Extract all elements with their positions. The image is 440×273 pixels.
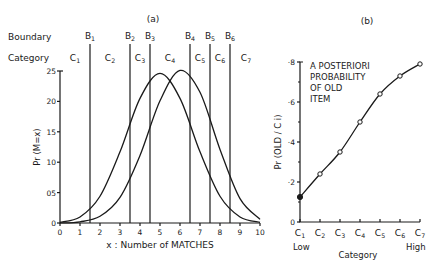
x-tick-label: 3 xyxy=(118,228,123,237)
category-labels: C1C2C3C4C5C6C7 xyxy=(70,53,251,64)
category-tick-label: C7 xyxy=(415,228,425,239)
category-tick-label: C3 xyxy=(335,228,345,239)
category-label: C3 xyxy=(135,53,145,64)
category-label: C4 xyxy=(165,53,175,64)
annotation-line: OF OLD xyxy=(310,83,343,93)
panel-b-axes: 0·2·4·6·8C1C2C3C4C5C6C7 xyxy=(288,58,425,239)
x-tick-label: 9 xyxy=(238,228,243,237)
x-tick-label: 8 xyxy=(218,228,223,237)
annotation-line: ITEM xyxy=(310,94,330,104)
data-point-marker xyxy=(358,120,362,124)
x-tick-label: 7 xyxy=(198,228,203,237)
figure: (a) Boundary Category B1B2B3B4B5B6 C1C2C… xyxy=(0,0,440,273)
boundary-row-label: Boundary xyxy=(8,32,52,42)
category-label: C2 xyxy=(105,53,115,64)
x-tick-label: 6 xyxy=(178,228,183,237)
y-tick-label: 25 xyxy=(46,67,56,76)
data-point-marker xyxy=(338,150,342,154)
category-tick-label: C6 xyxy=(395,228,405,239)
x-tick-label: 4 xyxy=(138,228,143,237)
posterior-annotation: A POSTERIORIPROBABILITYOF OLDITEM xyxy=(310,61,370,104)
x-tick-label: 1 xyxy=(78,228,83,237)
data-point-marker xyxy=(318,172,322,176)
y-tick-label: 0 xyxy=(290,218,295,227)
annotation-line: PROBABILITY xyxy=(310,72,366,82)
category-tick-label: C2 xyxy=(315,228,325,239)
category-label: C6 xyxy=(215,53,225,64)
panel-b-high-label: High xyxy=(406,242,426,252)
y-tick-label: 0 xyxy=(51,219,56,228)
panel-a-ylabel: Pr (M=x) xyxy=(32,128,42,165)
y-tick-label: ·6 xyxy=(288,98,295,107)
x-tick-label: 10 xyxy=(255,228,265,237)
data-point-marker xyxy=(297,194,302,199)
x-tick-label: 2 xyxy=(98,228,103,237)
x-tick-label: 5 xyxy=(158,228,163,237)
panel-b-chart: (b) A POSTERIORIPROBABILITYOF OLDITEM 0·… xyxy=(273,16,426,260)
y-tick-label: 15 xyxy=(46,128,56,137)
boundary-label: B4 xyxy=(185,31,195,42)
x-tick-label: 0 xyxy=(58,228,63,237)
panel-b-xlabel: Category xyxy=(339,250,378,260)
category-tick-label: C1 xyxy=(295,228,305,239)
category-row-label: Category xyxy=(8,53,50,63)
category-tick-label: C4 xyxy=(355,228,365,239)
y-tick-label: 10 xyxy=(46,158,56,167)
boundary-label: B5 xyxy=(205,31,215,42)
annotation-line: A POSTERIORI xyxy=(310,61,370,71)
y-tick-label: 05 xyxy=(46,189,56,198)
panel-a-xlabel: x : Number of MATCHES xyxy=(106,240,214,250)
data-point-marker xyxy=(418,62,422,66)
category-tick-label: C5 xyxy=(375,228,385,239)
boundary-label: B3 xyxy=(145,31,155,42)
data-point-marker xyxy=(398,74,402,78)
boundary-label: B2 xyxy=(125,31,135,42)
category-label: C1 xyxy=(70,53,80,64)
panel-b-title: (b) xyxy=(361,16,374,26)
y-tick-label: ·4 xyxy=(288,138,295,147)
panel-a-chart: (a) Boundary Category B1B2B3B4B5B6 C1C2C… xyxy=(8,14,265,250)
panel-a-title: (a) xyxy=(147,14,160,24)
y-tick-label: 20 xyxy=(46,97,56,106)
panel-b-ylabel: Pr (OLD / C i) xyxy=(273,114,283,169)
category-label: C7 xyxy=(241,53,251,64)
panel-b-low-label: Low xyxy=(293,242,310,252)
boundary-label: B1 xyxy=(85,31,95,42)
data-point-marker xyxy=(378,92,382,96)
y-tick-label: ·2 xyxy=(288,178,295,187)
category-label: C5 xyxy=(195,53,205,64)
y-tick-label: ·8 xyxy=(288,58,295,67)
boundary-label: B6 xyxy=(225,31,235,42)
